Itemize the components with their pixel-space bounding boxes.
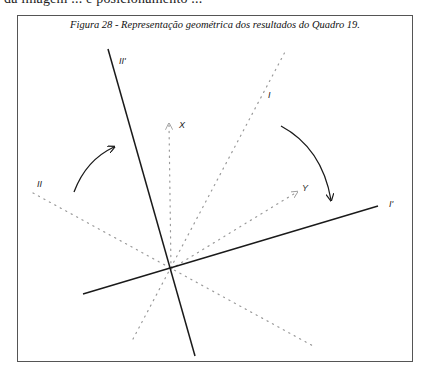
- vector-Y: [171, 192, 297, 269]
- label-Y: Y: [302, 183, 309, 193]
- axis-I-prime-solid: [83, 206, 378, 294]
- vector-X: [169, 124, 171, 269]
- label-I: I: [268, 90, 271, 100]
- rotation-arrow-left: [74, 147, 114, 192]
- rotation-diagram: II' I X II Y I': [0, 0, 428, 376]
- label-I-prime: I': [389, 199, 394, 209]
- axis-I-dotted: [133, 52, 285, 339]
- axis-II-prime-solid: [108, 49, 195, 356]
- label-II-prime: II': [119, 56, 126, 66]
- label-X: X: [178, 120, 186, 130]
- label-II: II: [37, 179, 43, 189]
- axis-II-dotted: [33, 193, 315, 347]
